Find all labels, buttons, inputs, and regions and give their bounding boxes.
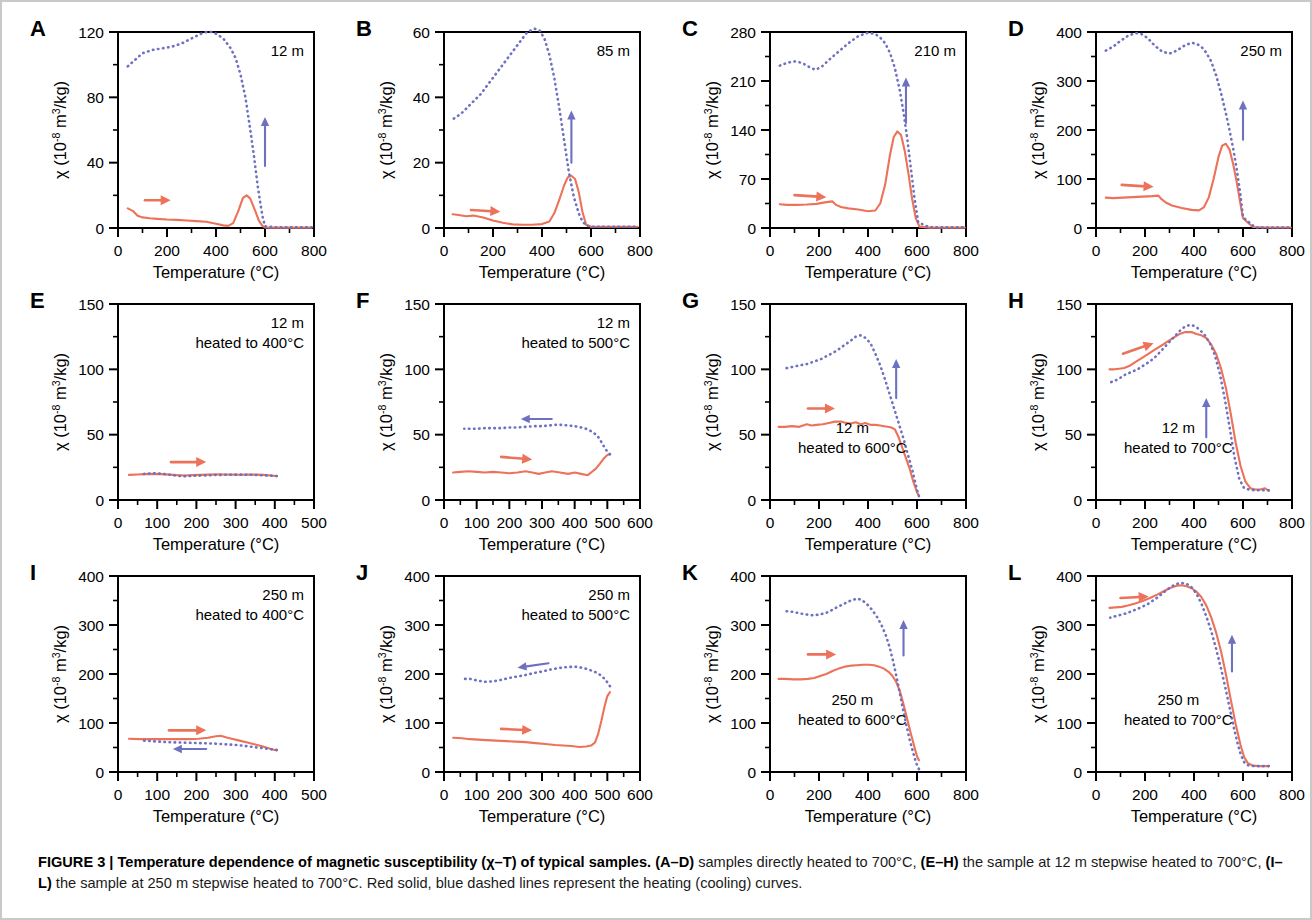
x-axis: 0100200300400500Temperature (°C)	[114, 500, 328, 553]
direction-arrows	[501, 662, 548, 735]
chart-panel-f: F0100200300400500600Temperature (°C)0501…	[352, 280, 662, 550]
arrow-head-cooling	[902, 78, 910, 87]
y-tick-label: 0	[1073, 220, 1082, 237]
panel-note-line: heated to 700°C	[1124, 711, 1233, 728]
arrow-shaft-heating	[795, 195, 819, 197]
curve-cooling	[464, 425, 610, 454]
y-tick-label: 0	[1073, 492, 1082, 509]
x-tick-label: 400	[562, 514, 588, 531]
plot-area-d: 0200400600800Temperature (°C)01002003004…	[1004, 8, 1312, 278]
y-tick-label: 0	[747, 220, 756, 237]
arrow-head-cooling	[899, 620, 907, 629]
panel-note-line: heated to 400°C	[195, 606, 304, 623]
panel-note-line: 12 m	[597, 314, 630, 331]
x-tick-label: 500	[301, 786, 327, 803]
curve-heating	[780, 131, 965, 227]
y-tick-label: 100	[1056, 715, 1082, 732]
panel-note: 250 mheated to 700°C	[1124, 691, 1233, 728]
y-tick-label: 0	[747, 492, 756, 509]
plot-frame	[1096, 32, 1292, 228]
arrow-shaft-heating	[1121, 597, 1141, 598]
y-tick-label: 120	[78, 24, 104, 41]
svg-text:χ (10-8 m3/kg): χ (10-8 m3/kg)	[376, 81, 395, 179]
y-axis: 0100200300400	[404, 568, 444, 781]
x-tick-label: 300	[223, 514, 249, 531]
x-tick-label: 100	[464, 514, 490, 531]
y-tick-label: 150	[730, 296, 756, 313]
y-axis: 070140210280	[730, 24, 770, 237]
arrow-head-cooling	[1228, 635, 1236, 644]
x-axis: 0100200300400500600Temperature (°C)	[440, 500, 654, 553]
panel-note: 210 m	[914, 42, 956, 59]
y-tick-label: 200	[78, 666, 104, 683]
y-tick-label: 20	[413, 154, 431, 171]
y-tick-label: 0	[1073, 764, 1082, 781]
x-axis: 0200400600800Temperature (°C)	[766, 772, 980, 825]
x-tick-label: 400	[203, 242, 229, 259]
y-tick-label: 150	[78, 296, 104, 313]
x-axis: 0200400600800Temperature (°C)	[1092, 228, 1306, 281]
arrow-head-cooling	[1239, 101, 1247, 110]
data-series-group	[779, 335, 919, 496]
x-tick-label: 100	[464, 786, 490, 803]
x-axis: 0200400600800Temperature (°C)	[766, 228, 980, 281]
arrow-head-heating	[161, 195, 171, 205]
arrow-head-heating	[490, 206, 500, 216]
x-tick-label: 600	[578, 242, 604, 259]
y-tick-label: 50	[739, 426, 757, 443]
curve-cooling	[780, 33, 965, 228]
y-axis-title: χ (10-8 m3/kg)	[1028, 81, 1047, 179]
y-tick-label: 0	[421, 764, 430, 781]
x-axis-title: Temperature (°C)	[153, 807, 280, 825]
data-series-group	[779, 599, 919, 770]
chart-panel-k: K0200400600800Temperature (°C)0100200300…	[678, 552, 988, 822]
arrow-head-heating	[1143, 342, 1154, 351]
y-tick-label: 100	[730, 715, 756, 732]
plot-area-g: 0200400600800Temperature (°C)050100150χ …	[678, 280, 988, 550]
x-tick-label: 0	[114, 242, 123, 259]
y-tick-label: 100	[404, 361, 430, 378]
y-tick-label: 300	[730, 617, 756, 634]
svg-text:χ (10-8 m3/kg): χ (10-8 m3/kg)	[376, 625, 395, 723]
chart-panel-d: D0200400600800Temperature (°C)0100200300…	[1004, 8, 1312, 278]
arrow-head-heating	[1143, 181, 1153, 191]
x-axis: 0200400600800Temperature (°C)	[440, 228, 654, 281]
arrow-head-heating	[522, 454, 532, 464]
x-tick-label: 0	[1092, 514, 1101, 531]
y-tick-label: 140	[730, 122, 756, 139]
y-tick-label: 50	[1065, 426, 1083, 443]
y-axis: 050100150	[78, 296, 118, 509]
y-tick-label: 400	[730, 568, 756, 585]
y-tick-label: 100	[78, 715, 104, 732]
data-series-group	[780, 33, 965, 228]
panel-note: 250 mheated to 500°C	[521, 586, 630, 623]
curve-cooling	[784, 599, 919, 770]
x-tick-label: 400	[262, 514, 288, 531]
panel-note-line: heated to 600°C	[798, 711, 907, 728]
x-axis: 0100200300400500Temperature (°C)	[114, 772, 328, 825]
y-tick-label: 70	[739, 171, 757, 188]
x-tick-label: 600	[1230, 242, 1256, 259]
x-tick-label: 200	[1132, 242, 1158, 259]
caption-panel-ref: (E–H)	[921, 854, 959, 870]
y-tick-label: 100	[404, 715, 430, 732]
chart-panel-b: B0200400600800Temperature (°C)0204060χ (…	[352, 8, 662, 278]
panel-note-line: heated to 500°C	[521, 334, 630, 351]
curve-heating	[453, 454, 610, 475]
y-tick-label: 150	[1056, 296, 1082, 313]
caption-figure-label: FIGURE 3 | Temperature dependence of mag…	[38, 854, 655, 870]
y-axis: 050100150	[1056, 296, 1096, 509]
arrow-head-cooling	[173, 745, 182, 753]
y-tick-label: 200	[404, 666, 430, 683]
x-tick-label: 400	[855, 242, 881, 259]
x-tick-label: 600	[1230, 514, 1256, 531]
y-axis-title: χ (10-8 m3/kg)	[376, 353, 395, 451]
panel-note: 12 m	[271, 42, 304, 59]
arrow-head-heating	[826, 649, 836, 659]
data-series-group	[453, 425, 610, 475]
x-axis-title: Temperature (°C)	[153, 535, 280, 553]
x-axis-title: Temperature (°C)	[153, 263, 280, 281]
x-tick-label: 400	[1181, 242, 1207, 259]
x-tick-label: 800	[1279, 786, 1305, 803]
y-axis: 0100200300400	[78, 568, 118, 781]
